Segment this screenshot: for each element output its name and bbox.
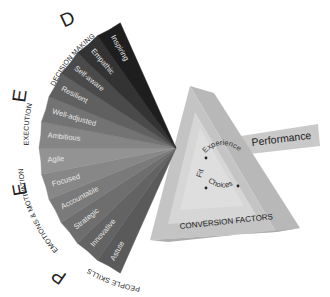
letter-d: D	[57, 7, 78, 32]
decp-diagram: Performance Fit Experience Choices CONVE…	[0, 0, 330, 297]
category-execution: EXECUTION	[22, 102, 33, 145]
letter-p: P	[47, 264, 69, 288]
letter-e-execution: E	[8, 88, 31, 103]
category-people-skills: PEOPLE SKILLS	[85, 267, 140, 292]
trait-label: Agile	[47, 154, 64, 165]
letter-e-emotions: E	[8, 181, 31, 197]
